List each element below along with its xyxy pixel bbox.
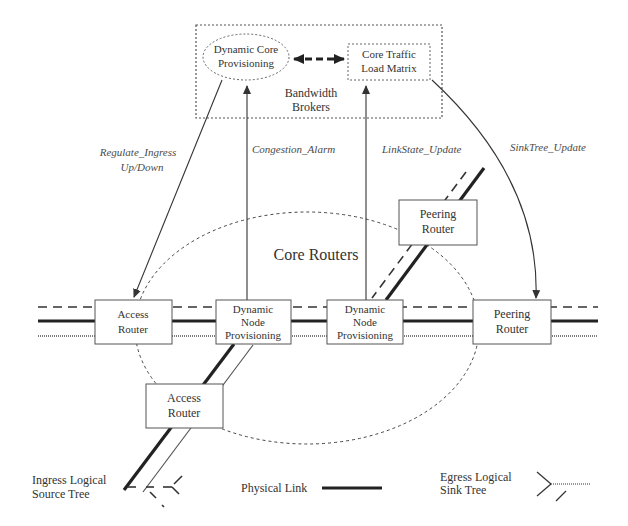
dynamic-node-provisioning-right[interactable]: Dynamic Node Provisioning [327, 300, 403, 344]
dnp-right-label-3: Provisioning [337, 329, 394, 341]
bandwidth-brokers-group: Dynamic Core Provisioning Core Traffic L… [196, 25, 442, 118]
dnp-right-label-1: Dynamic [345, 303, 385, 315]
peering-router-right-label-1: Peering [494, 307, 531, 321]
bandwidth-brokers-label-2: Brokers [292, 100, 330, 114]
peering-router-top[interactable]: Peering Router [399, 200, 477, 245]
traffic-matrix-label-2: Load Matrix [361, 62, 417, 74]
dynamic-node-provisioning-left[interactable]: Dynamic Node Provisioning [216, 300, 291, 344]
bandwidth-brokers-label-1: Bandwidth [285, 86, 338, 100]
traffic-matrix-label-1: Core Traffic [362, 48, 416, 60]
access-router-bottom[interactable]: Access Router [146, 384, 223, 428]
dnp-left-label-3: Provisioning [225, 329, 282, 341]
peering-router-top-label-1: Peering [420, 207, 457, 221]
dynamic-core-label-2: Provisioning [218, 57, 275, 69]
dnp-right-label-2: Node [353, 316, 377, 328]
legend-ingress-label-2: Source Tree [32, 487, 90, 501]
legend-egress-label-2: Sink Tree [440, 483, 486, 497]
dynamic-core-label-1: Dynamic Core [214, 43, 279, 55]
access-router-bottom-label-1: Access [167, 391, 201, 405]
ingress-source-tree-symbol [128, 476, 182, 507]
message-arrows [134, 80, 536, 300]
access-router-left[interactable]: Access Router [95, 300, 172, 344]
network-diagram: Dynamic Core Provisioning Core Traffic L… [0, 0, 628, 526]
legend-physical-label: Physical Link [241, 481, 307, 495]
regulate-ingress-label-2: Up/Down [121, 161, 164, 173]
legend-egress-label-1: Egress Logical [440, 470, 512, 484]
sinktree-update-label: SinkTree_Update [510, 141, 586, 153]
peering-router-right-label-2: Router [496, 322, 529, 336]
legend: Ingress Logical Source Tree Physical Lin… [32, 470, 590, 507]
dnp-left-label-1: Dynamic [233, 303, 273, 315]
legend-ingress-label-1: Ingress Logical [32, 473, 107, 487]
core-routers-label: Core Routers [274, 246, 359, 263]
regulate-ingress-label-1: Regulate_Ingress [99, 146, 177, 158]
dnp-left-label-2: Node [241, 316, 265, 328]
access-router-bottom-label-2: Router [168, 406, 201, 420]
congestion-alarm-label: Congestion_Alarm [252, 143, 335, 155]
peering-router-right[interactable]: Peering Router [473, 300, 551, 344]
access-router-left-label-2: Router [118, 323, 148, 335]
peering-router-top-label-2: Router [422, 222, 455, 236]
linkstate-update-label: LinkState_Update [381, 143, 462, 155]
access-router-left-label-1: Access [117, 308, 148, 320]
egress-sink-tree-symbol [537, 472, 590, 501]
